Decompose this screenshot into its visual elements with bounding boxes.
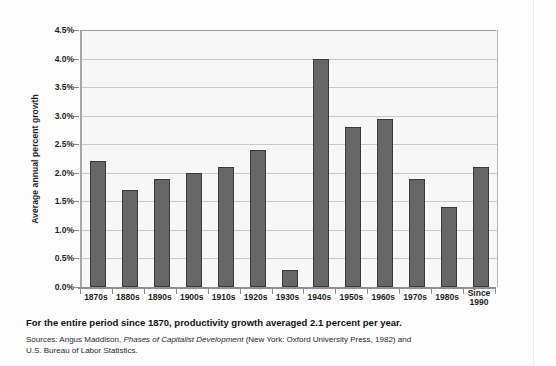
x-axis-tick-label-line: 1900s xyxy=(180,292,204,302)
x-axis-tick-label-line: 1930s xyxy=(276,292,300,302)
x-axis-tick-label: 1980s xyxy=(431,293,463,303)
x-axis-tick-label: 1930s xyxy=(272,293,304,303)
y-axis-tick-label: 1.5% xyxy=(38,197,74,205)
sources-note: Sources: Angus Maddison, Phases of Capit… xyxy=(26,335,426,356)
x-axis-tick-label-line: 1970s xyxy=(403,292,427,302)
y-axis-tick-label: 0.0% xyxy=(38,283,74,291)
y-axis-tick-label: 2.0% xyxy=(38,169,74,177)
bar xyxy=(282,270,298,287)
y-axis-tick-label: 2.5% xyxy=(38,140,74,148)
x-axis-tick-label-line: 1990 xyxy=(470,297,489,307)
x-axis-tick-label-line: 1890s xyxy=(148,292,172,302)
bar xyxy=(377,119,393,287)
x-axis-tick-label-line: 1940s xyxy=(308,292,332,302)
bar xyxy=(345,127,361,287)
figure-caption: For the entire period since 1870, produc… xyxy=(26,316,426,356)
y-axis-tick-mark xyxy=(74,30,79,31)
bar-series xyxy=(82,30,497,287)
x-axis-tick-label-line: 1910s xyxy=(212,292,236,302)
plot-top-border xyxy=(80,30,496,31)
x-axis-tick-label: 1880s xyxy=(112,293,144,303)
figure-page: Average annual percent growth 0.0%0.5%1.… xyxy=(0,0,556,366)
x-axis-tick-label: 1940s xyxy=(303,293,335,303)
y-axis-tick-label: 4.5% xyxy=(38,26,74,34)
bar xyxy=(186,173,202,287)
bar xyxy=(409,179,425,288)
y-axis-tick-mark xyxy=(74,87,79,88)
x-axis-tick-label-line: 1950s xyxy=(340,292,364,302)
bar xyxy=(154,179,170,288)
x-axis-tick-label: 1960s xyxy=(367,293,399,303)
y-axis-tick-mark xyxy=(74,173,79,174)
y-axis-tick-mark xyxy=(74,144,79,145)
bar xyxy=(250,150,266,287)
x-axis-tick-label: 1910s xyxy=(208,293,240,303)
y-axis-tick-mark xyxy=(74,59,79,60)
bar xyxy=(313,59,329,287)
y-axis-tick-label: 1.0% xyxy=(38,226,74,234)
y-axis-tick-labels: 0.0%0.5%1.0%1.5%2.0%2.5%3.0%3.5%4.0%4.5% xyxy=(34,30,74,287)
x-axis-tick-labels: 1870s1880s1890s1900s1910s1920s1930s1940s… xyxy=(80,293,496,315)
caption-text: For the entire period since 1870, produc… xyxy=(26,316,426,329)
sources-prefix: Sources: Angus Maddison, xyxy=(26,335,123,344)
y-axis-tick-label: 4.0% xyxy=(38,55,74,63)
bar xyxy=(218,167,234,287)
x-axis-tick-label: 1920s xyxy=(240,293,272,303)
bar xyxy=(473,167,489,287)
bar xyxy=(122,190,138,287)
x-axis-tick-label: Since1990 xyxy=(463,289,495,307)
bar-chart: Average annual percent growth 0.0%0.5%1.… xyxy=(0,0,520,305)
y-axis-tick-label: 3.5% xyxy=(38,83,74,91)
x-axis-tick-label: 1950s xyxy=(335,293,367,303)
x-axis-tick-label-line: 1880s xyxy=(116,292,140,302)
x-axis-tick-label: 1900s xyxy=(176,293,208,303)
page-right-border xyxy=(533,0,534,366)
x-axis-tick-label: 1890s xyxy=(144,293,176,303)
x-axis-tick-label-line: 1870s xyxy=(84,292,108,302)
sources-book-title: Phases of Capitalist Development xyxy=(123,335,243,344)
y-axis-tick-mark xyxy=(74,116,79,117)
y-axis-tick-mark xyxy=(74,230,79,231)
plot-area xyxy=(80,30,498,287)
y-axis-tick-label: 3.0% xyxy=(38,112,74,120)
x-axis-tick-label-line: 1960s xyxy=(371,292,395,302)
bar xyxy=(90,161,106,287)
y-axis-tick-label: 0.5% xyxy=(38,254,74,262)
x-axis-tick-label: 1870s xyxy=(80,293,112,303)
x-axis-tick-label: 1970s xyxy=(399,293,431,303)
y-axis-tick-mark xyxy=(74,258,79,259)
bar xyxy=(441,207,457,287)
y-axis-tick-mark xyxy=(74,201,79,202)
x-axis-tick-label-line: 1920s xyxy=(244,292,268,302)
x-axis-tick-label-line: 1980s xyxy=(435,292,459,302)
